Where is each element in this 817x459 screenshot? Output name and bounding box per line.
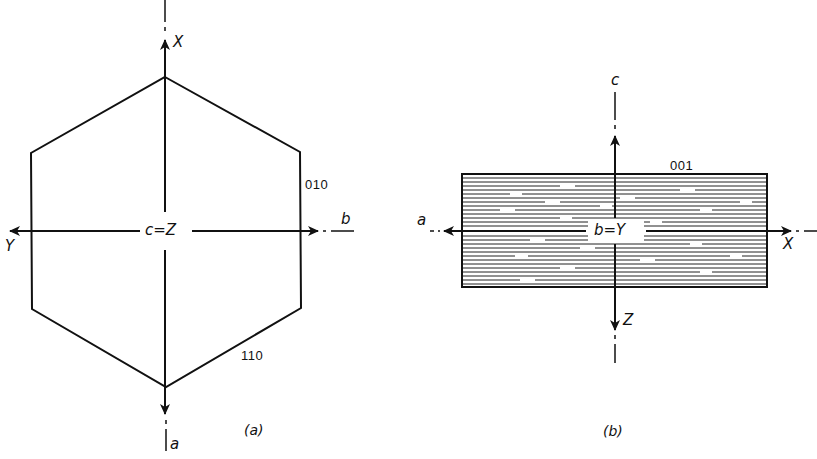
face-label-001: 001	[670, 159, 693, 172]
face-label-010: 010	[305, 178, 328, 191]
caption-b: (b)	[603, 424, 623, 438]
label-y-axis-a: Y	[5, 239, 14, 254]
label-c-axis-b: c	[611, 73, 619, 88]
label-center-b: b=Y	[594, 223, 625, 238]
face-label-110: 110	[241, 349, 263, 362]
panel-a	[10, 0, 354, 451]
label-x-axis-b: X	[783, 237, 793, 252]
label-a-axis-b: a	[417, 213, 426, 228]
label-z-axis-b: Z	[623, 313, 633, 328]
label-a-axis-a: a	[170, 437, 179, 452]
label-center-a: c=Z	[142, 223, 179, 238]
label-x-axis-a: X	[173, 35, 183, 50]
crystal-orientation-diagram	[0, 0, 817, 459]
label-b-axis-a: b	[341, 212, 351, 227]
caption-a: (a)	[244, 423, 264, 437]
